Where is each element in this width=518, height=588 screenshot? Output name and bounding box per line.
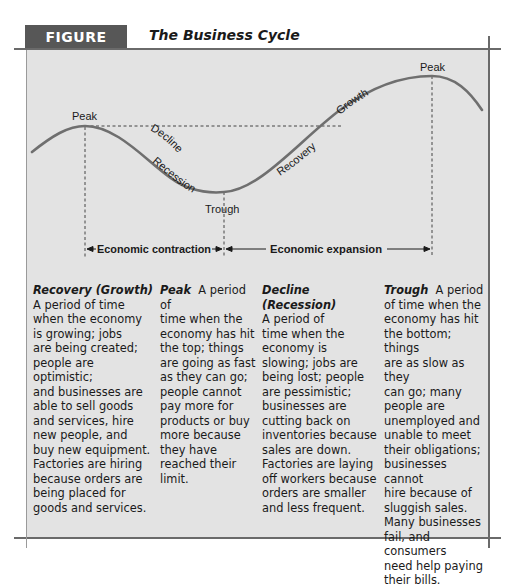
definition-text: A period of time when the economy is slo… xyxy=(262,312,380,515)
guide-lines xyxy=(85,76,432,257)
definition-text: A period of time when the economy has hi… xyxy=(384,283,483,587)
definition-term: Decline (Recession) xyxy=(262,283,336,312)
definition-decline: Decline (Recession) A period of time whe… xyxy=(262,283,380,515)
definition-term: Peak xyxy=(160,283,191,297)
definition-peak: Peak A period of time when the economy h… xyxy=(160,283,256,486)
growth-label: Growth xyxy=(333,86,370,116)
cycle-curve xyxy=(32,76,482,193)
recession-text: Recession xyxy=(151,154,198,194)
trough-label: Trough xyxy=(205,203,239,215)
definition-recovery: Recovery (Growth) A period of time when … xyxy=(33,283,155,515)
recession-label: Recession xyxy=(151,154,198,194)
peak-left-label: Peak xyxy=(72,110,98,122)
expansion-label: Economic expansion xyxy=(270,243,382,255)
definition-text: A period of time when the economy has hi… xyxy=(160,283,255,486)
definition-trough: Trough A period of time when the economy… xyxy=(384,283,488,588)
arrow-right-icon xyxy=(216,247,222,252)
definition-text: A period of time when the economy is gro… xyxy=(33,298,155,516)
recovery-label: Recovery xyxy=(274,139,318,177)
peak-right-label: Peak xyxy=(420,61,446,73)
contraction-label: Economic contraction xyxy=(97,243,211,255)
arrow-left-icon xyxy=(87,247,93,252)
recovery-text: Recovery xyxy=(274,139,318,177)
definition-term: Recovery (Growth) xyxy=(33,283,153,297)
arrow-right-icon xyxy=(424,247,430,252)
definition-term: Trough xyxy=(384,283,428,297)
growth-text: Growth xyxy=(333,86,370,116)
arrow-left-icon xyxy=(226,247,232,252)
